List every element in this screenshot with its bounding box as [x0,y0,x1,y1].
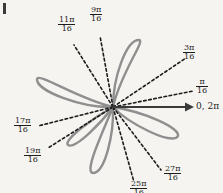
petal-3 [90,107,113,173]
petal-2 [37,78,113,107]
label-17pi-16: 17π 16 [14,117,31,134]
label-3pi-16: 3π 16 [183,44,195,61]
ray-pi-16 [113,91,193,107]
label-9pi-16: 9π 16 [90,6,102,23]
label-pi-16: π 16 [196,78,208,95]
ray-25pi-16 [113,107,134,182]
label-origin-0-2pi: 0, 2π [196,102,219,111]
label-19pi-16: 19π 16 [24,147,41,164]
ray-17pi-16 [38,107,113,126]
label-11pi-16: 11π 16 [58,16,75,33]
label-27pi-16: 27π 16 [164,165,181,182]
ray-27pi-16 [113,107,161,170]
label-25pi-16: 25π 16 [130,180,147,193]
petal-4 [113,107,178,138]
polar-rose-figure: 11π 16 9π 16 3π 16 π 16 0, 2π 17π 16 19π… [0,0,223,193]
polar-axis-arrowhead [185,103,194,112]
